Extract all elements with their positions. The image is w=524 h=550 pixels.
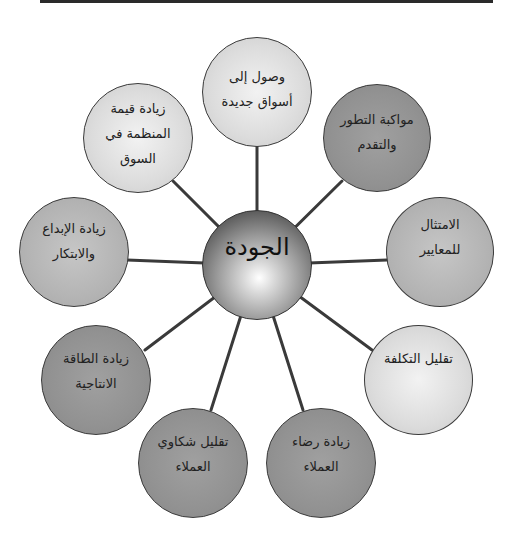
hub-label: الجودة bbox=[224, 233, 289, 261]
node-label: وصول إلى أسواق جديدة bbox=[215, 64, 298, 114]
node-standards-compliance: الامتثال للمعايير bbox=[386, 197, 494, 307]
node-label: زيادة رضاء العملاء bbox=[286, 429, 356, 479]
node-cost-reduction: تقليل التكلفة bbox=[364, 325, 473, 435]
node-organization-value: زيادة قيمة المنظمة في السوق bbox=[83, 83, 193, 193]
hub-quality: الجودة bbox=[202, 210, 312, 320]
node-label: مواكبة التطور والتقدم bbox=[334, 107, 420, 157]
node-label: زيادة قيمة المنظمة في السوق bbox=[99, 96, 176, 171]
node-production-capacity: زيادة الطاقة الانتاجية bbox=[41, 325, 151, 435]
node-new-markets: وصول إلى أسواق جديدة bbox=[202, 37, 312, 147]
node-label: الامتثال للمعايير bbox=[414, 212, 467, 262]
node-complaint-reduction: تقليل شكاوي العملاء bbox=[138, 408, 248, 518]
node-label: زيادة الطاقة الانتاجية bbox=[57, 346, 135, 396]
node-label: تقليل التكلفة bbox=[378, 346, 459, 371]
node-customer-satisfaction: زيادة رضاء العملاء bbox=[266, 408, 376, 518]
node-label: زيادة الإبداع والابتكار bbox=[36, 216, 111, 266]
node-label: تقليل شكاوي العملاء bbox=[152, 429, 235, 479]
node-innovation: زيادة الإبداع والابتكار bbox=[19, 197, 129, 307]
node-keep-up-with-progress: مواكبة التطور والتقدم bbox=[323, 84, 431, 192]
